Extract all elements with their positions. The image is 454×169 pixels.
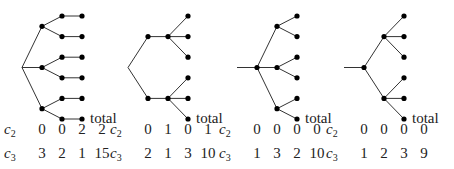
count-value: 3 <box>184 145 192 161</box>
leaf-node <box>79 75 84 80</box>
tree-edge <box>42 26 62 36</box>
count-value: 2 <box>144 145 152 161</box>
leaf-node <box>185 75 190 80</box>
leaf-node <box>401 96 406 101</box>
count-value: 3 <box>38 145 46 161</box>
count-value: 3 <box>273 145 281 161</box>
tree-edge <box>364 37 384 68</box>
leaf-node <box>185 55 190 60</box>
count-value: 1 <box>360 145 368 161</box>
row-label-c3: c3 <box>4 145 16 163</box>
tree-edge <box>384 37 404 58</box>
tree-diagram: totalc20022c332115totalc20101c321310tota… <box>0 0 454 169</box>
leaf-node <box>185 96 190 101</box>
tree-edge <box>257 68 277 109</box>
row-label-c2: c2 <box>326 121 338 139</box>
row-label-c3: c3 <box>110 145 122 163</box>
total-value: 10 <box>310 145 325 161</box>
tree-edge <box>384 16 404 37</box>
tree-node <box>145 34 150 39</box>
tree-edge <box>22 68 42 109</box>
total-value: 1 <box>204 121 212 137</box>
tree-edge <box>277 16 297 26</box>
leaf-node <box>401 13 406 18</box>
leaf-node <box>185 13 190 18</box>
tree-2: totalc20101c321310 <box>110 13 223 163</box>
tree-edge <box>277 26 297 36</box>
leaf-node <box>294 96 299 101</box>
tree-node <box>254 65 259 70</box>
total-value: 15 <box>95 145 110 161</box>
tree-node <box>59 96 64 101</box>
row-label-c2: c2 <box>110 121 122 139</box>
count-value: 2 <box>380 145 388 161</box>
count-value: 2 <box>78 121 86 137</box>
count-value: 0 <box>273 121 281 137</box>
tree-edge <box>42 57 62 67</box>
count-value: 0 <box>293 121 301 137</box>
leaf-node <box>294 75 299 80</box>
tree-node <box>59 34 64 39</box>
count-value: 0 <box>253 121 261 137</box>
total-value: 0 <box>313 121 321 137</box>
row-label-c2: c2 <box>4 121 16 139</box>
leaf-node <box>401 55 406 60</box>
leaf-node <box>79 96 84 101</box>
tree-node <box>39 65 44 70</box>
count-value: 1 <box>78 145 86 161</box>
leaf-node <box>294 13 299 18</box>
tree-1: totalc20022c332115 <box>4 13 117 163</box>
leaf-node <box>294 55 299 60</box>
tree-edge <box>42 16 62 26</box>
count-value: 0 <box>184 121 192 137</box>
tree-3: totalc20000c313210 <box>219 13 332 163</box>
count-value: 0 <box>38 121 46 137</box>
total-value: 10 <box>201 145 216 161</box>
row-label-c2: c2 <box>219 121 231 139</box>
row-label-c3: c3 <box>326 145 338 163</box>
tree-edge <box>42 109 62 119</box>
count-value: 1 <box>164 121 172 137</box>
tree-edge <box>277 68 297 78</box>
tree-edge <box>168 78 188 99</box>
tree-node <box>274 106 279 111</box>
count-value: 0 <box>400 121 408 137</box>
tree-node <box>274 24 279 29</box>
tree-edge <box>128 37 148 68</box>
tree-node <box>165 34 170 39</box>
tree-edge <box>257 26 277 67</box>
tree-node <box>274 65 279 70</box>
count-value: 0 <box>144 121 152 137</box>
tree-edge <box>277 109 297 119</box>
tree-edge <box>384 98 404 119</box>
tree-edge <box>384 78 404 99</box>
tree-edge <box>42 98 62 108</box>
leaf-node <box>79 34 84 39</box>
leaf-node <box>79 55 84 60</box>
tree-edge <box>42 68 62 78</box>
tree-node <box>381 34 386 39</box>
tree-node <box>59 75 64 80</box>
leaf-node <box>401 34 406 39</box>
row-label-c3: c3 <box>219 145 231 163</box>
total-value: 0 <box>420 121 428 137</box>
tree-edge <box>168 37 188 58</box>
total-value: 2 <box>98 121 106 137</box>
count-value: 0 <box>380 121 388 137</box>
tree-4: totalc20000c31239 <box>326 13 439 163</box>
tree-edge <box>364 68 384 99</box>
leaf-node <box>401 75 406 80</box>
tree-node <box>39 106 44 111</box>
total-value: 9 <box>420 145 428 161</box>
tree-edge <box>168 16 188 37</box>
tree-edge <box>277 57 297 67</box>
tree-edge <box>128 68 148 99</box>
leaf-node <box>185 34 190 39</box>
tree-edge <box>277 98 297 108</box>
leaf-node <box>294 34 299 39</box>
count-value: 1 <box>164 145 172 161</box>
tree-node <box>39 24 44 29</box>
tree-node <box>59 55 64 60</box>
count-value: 2 <box>293 145 301 161</box>
count-value: 2 <box>58 145 66 161</box>
